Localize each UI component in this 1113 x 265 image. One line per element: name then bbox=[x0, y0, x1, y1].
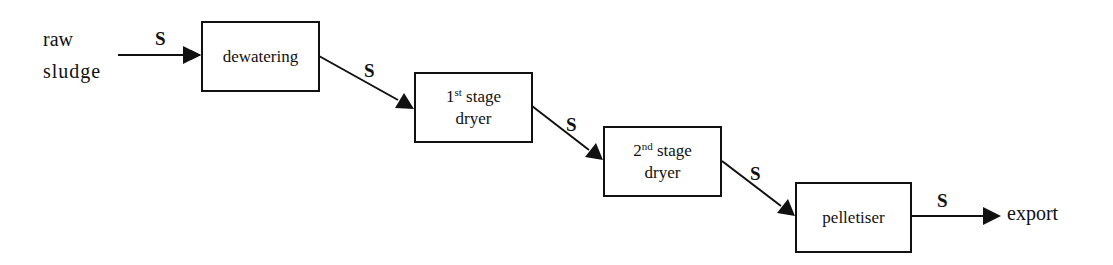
node-dewatering: dewatering bbox=[201, 21, 320, 92]
stream-label-3: S bbox=[566, 114, 577, 136]
node-label: pelletiser bbox=[822, 207, 884, 229]
stream-label-5: S bbox=[937, 190, 948, 212]
node-label-line2: dryer bbox=[456, 108, 492, 130]
node-label-line1: 1st stage bbox=[446, 86, 501, 108]
arrowhead-3 bbox=[585, 143, 603, 160]
node-2nd-stage-dryer: 2nd stage dryer bbox=[603, 126, 722, 197]
arrowhead-5 bbox=[983, 207, 1001, 225]
node-pelletiser: pelletiser bbox=[795, 182, 912, 253]
node-label: dewatering bbox=[223, 46, 299, 68]
node-label-line2: dryer bbox=[645, 162, 681, 184]
stream-label-2: S bbox=[364, 60, 375, 82]
arrow-layer bbox=[0, 0, 1113, 265]
arrowhead-4 bbox=[777, 199, 795, 216]
stream-label-1: S bbox=[155, 28, 166, 50]
node-1st-stage-dryer: 1st stage dryer bbox=[414, 72, 533, 143]
output-label-export: export bbox=[1007, 202, 1058, 225]
node-label-line1: 2nd stage bbox=[633, 140, 692, 162]
input-label-raw: raw bbox=[43, 28, 73, 51]
stream-label-4: S bbox=[750, 163, 761, 185]
input-label-sludge: sludge bbox=[43, 60, 101, 83]
arrowhead-1 bbox=[183, 46, 201, 64]
arrowhead-2 bbox=[395, 93, 414, 109]
